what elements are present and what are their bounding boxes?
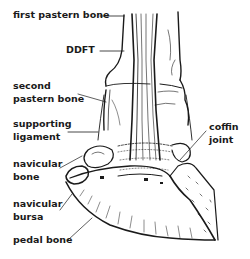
label-navicular-bone-line2: bone bbox=[13, 171, 40, 183]
label-ddft: DDFT bbox=[66, 44, 95, 56]
label-first-pastern-bone: first pastern bone bbox=[13, 9, 109, 21]
label-supporting-ligament-line2: ligament bbox=[13, 131, 60, 143]
label-navicular-bone-line1: navicular bbox=[13, 158, 62, 170]
leader-coffin-joint bbox=[180, 131, 206, 160]
label-coffin-joint-line1: coffin bbox=[209, 121, 239, 133]
label-second-pastern-bone-line1: second bbox=[13, 80, 51, 92]
hoof-anatomy-diagram: first pastern bone DDFT second pastern b… bbox=[0, 0, 250, 259]
label-second-pastern-bone-line2: pastern bone bbox=[13, 93, 84, 105]
label-coffin-joint-line2: joint bbox=[209, 134, 233, 146]
label-navicular-bursa-line1: navicular bbox=[13, 198, 62, 210]
label-navicular-bursa-line2: bursa bbox=[13, 211, 43, 223]
label-supporting-ligament-line1: supporting bbox=[13, 118, 72, 130]
label-pedal-bone: pedal bone bbox=[13, 234, 73, 246]
